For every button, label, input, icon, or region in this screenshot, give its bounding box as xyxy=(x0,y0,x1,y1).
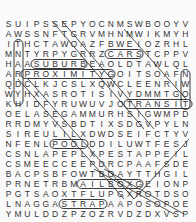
grid-letter[interactable]: W xyxy=(78,99,87,109)
grid-letter[interactable]: D xyxy=(125,59,134,69)
grid-letter[interactable]: I xyxy=(97,119,106,129)
grid-letter[interactable]: S xyxy=(23,29,32,39)
grid-letter[interactable]: A xyxy=(78,39,87,49)
grid-letter[interactable]: A xyxy=(41,89,50,99)
grid-letter[interactable]: Y xyxy=(125,169,134,179)
grid-letter[interactable]: S xyxy=(60,119,69,129)
grid-letter[interactable]: C xyxy=(32,39,41,49)
grid-letter[interactable]: I xyxy=(125,69,134,79)
grid-letter[interactable]: V xyxy=(88,29,97,39)
grid-letter[interactable]: V xyxy=(143,119,152,129)
grid-letter[interactable]: T xyxy=(143,169,152,179)
grid-letter[interactable]: X xyxy=(153,209,162,219)
grid-letter[interactable]: Z xyxy=(97,49,106,59)
grid-letter[interactable]: T xyxy=(125,149,134,159)
grid-letter[interactable]: W xyxy=(60,39,69,49)
grid-letter[interactable]: L xyxy=(32,149,41,159)
grid-letter[interactable]: X xyxy=(125,179,134,189)
grid-letter[interactable]: Y xyxy=(171,19,180,29)
grid-letter[interactable]: N xyxy=(106,19,115,29)
grid-letter[interactable]: L xyxy=(116,59,125,69)
grid-letter[interactable]: T xyxy=(78,89,87,99)
grid-letter[interactable]: G xyxy=(41,199,50,209)
grid-letter[interactable]: E xyxy=(60,19,69,29)
grid-letter[interactable]: T xyxy=(134,59,143,69)
grid-letter[interactable]: P xyxy=(106,189,115,199)
grid-letter[interactable]: D xyxy=(143,209,152,219)
grid-letter[interactable]: R xyxy=(41,49,50,59)
grid-letter[interactable]: R xyxy=(69,59,78,69)
grid-letter[interactable]: G xyxy=(171,89,180,99)
grid-letter[interactable]: S xyxy=(125,109,134,119)
grid-letter[interactable]: C xyxy=(50,159,59,169)
grid-letter[interactable]: B xyxy=(4,169,13,179)
grid-letter[interactable]: Y xyxy=(171,29,180,39)
grid-letter[interactable]: F xyxy=(41,99,50,109)
grid-letter[interactable]: E xyxy=(32,179,41,189)
grid-letter[interactable]: V xyxy=(116,209,125,219)
grid-letter[interactable]: E xyxy=(60,149,69,159)
grid-letter[interactable]: D xyxy=(171,159,180,169)
grid-letter[interactable]: M xyxy=(162,29,171,39)
grid-letter[interactable]: E xyxy=(23,139,32,149)
grid-letter[interactable]: T xyxy=(60,29,69,39)
grid-letter[interactable]: U xyxy=(97,189,106,199)
grid-letter[interactable]: E xyxy=(50,109,59,119)
grid-letter[interactable]: S xyxy=(4,19,13,29)
grid-letter[interactable]: N xyxy=(23,149,32,159)
grid-letter[interactable]: G xyxy=(32,199,41,209)
grid-letter[interactable]: S xyxy=(143,69,152,79)
grid-letter[interactable]: D xyxy=(23,119,32,129)
grid-letter[interactable]: Q xyxy=(97,79,106,89)
grid-letter[interactable]: P xyxy=(181,209,190,219)
grid-letter[interactable]: S xyxy=(32,189,41,199)
grid-letter[interactable]: L xyxy=(78,79,87,89)
grid-letter[interactable]: M xyxy=(116,19,125,29)
grid-letter[interactable]: T xyxy=(69,189,78,199)
grid-letter[interactable]: D xyxy=(97,139,106,149)
grid-letter[interactable]: M xyxy=(162,109,171,119)
grid-letter[interactable]: R xyxy=(125,49,134,59)
grid-letter[interactable]: I xyxy=(23,19,32,29)
grid-letter[interactable]: F xyxy=(13,139,22,149)
grid-letter[interactable]: R xyxy=(13,179,22,189)
grid-letter[interactable]: R xyxy=(32,69,41,79)
grid-letter[interactable]: C xyxy=(153,49,162,59)
grid-letter[interactable]: O xyxy=(41,69,50,79)
grid-letter[interactable]: N xyxy=(153,99,162,109)
grid-letter[interactable]: P xyxy=(32,169,41,179)
grid-letter[interactable]: A xyxy=(41,149,50,159)
grid-letter[interactable]: G xyxy=(134,179,143,189)
grid-letter[interactable]: R xyxy=(13,119,22,129)
grid-letter[interactable]: L xyxy=(32,209,41,219)
grid-letter[interactable]: U xyxy=(97,109,106,119)
grid-letter[interactable]: E xyxy=(88,59,97,69)
grid-letter[interactable]: S xyxy=(171,139,180,149)
grid-letter[interactable]: E xyxy=(125,39,134,49)
grid-letter[interactable]: N xyxy=(13,49,22,59)
grid-letter[interactable]: Y xyxy=(4,209,13,219)
grid-letter[interactable]: M xyxy=(32,119,41,129)
grid-letter[interactable]: D xyxy=(106,129,115,139)
grid-letter[interactable]: X xyxy=(88,79,97,89)
grid-letter[interactable]: N xyxy=(116,29,125,39)
grid-letter[interactable]: D xyxy=(78,119,87,129)
grid-letter[interactable]: Y xyxy=(125,89,134,99)
grid-letter[interactable]: W xyxy=(134,139,143,149)
grid-letter[interactable]: K xyxy=(153,29,162,39)
grid-letter[interactable]: U xyxy=(125,139,134,149)
grid-letter[interactable]: O xyxy=(116,69,125,79)
grid-letter[interactable]: O xyxy=(162,19,171,29)
grid-letter[interactable]: C xyxy=(23,79,32,89)
grid-letter[interactable]: A xyxy=(116,49,125,59)
grid-letter[interactable]: I xyxy=(13,129,22,139)
grid-letter[interactable]: Z xyxy=(153,39,162,49)
grid-letter[interactable]: T xyxy=(69,199,78,209)
grid-letter[interactable]: D xyxy=(125,209,134,219)
grid-letter[interactable]: G xyxy=(106,69,115,79)
grid-letter[interactable]: S xyxy=(97,89,106,99)
grid-letter[interactable]: L xyxy=(4,199,13,209)
grid-letter[interactable]: R xyxy=(162,79,171,89)
grid-letter[interactable]: H xyxy=(153,169,162,179)
grid-letter[interactable]: N xyxy=(171,179,180,189)
